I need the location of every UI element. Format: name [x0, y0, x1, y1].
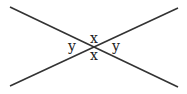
diagram-svg: x x y y: [0, 0, 187, 94]
angle-label-top: x: [90, 30, 98, 46]
angle-label-left: y: [67, 38, 76, 54]
angle-label-bottom: x: [90, 47, 98, 63]
vertical-angles-diagram: x x y y: [0, 0, 187, 94]
angle-label-right: y: [111, 38, 120, 54]
